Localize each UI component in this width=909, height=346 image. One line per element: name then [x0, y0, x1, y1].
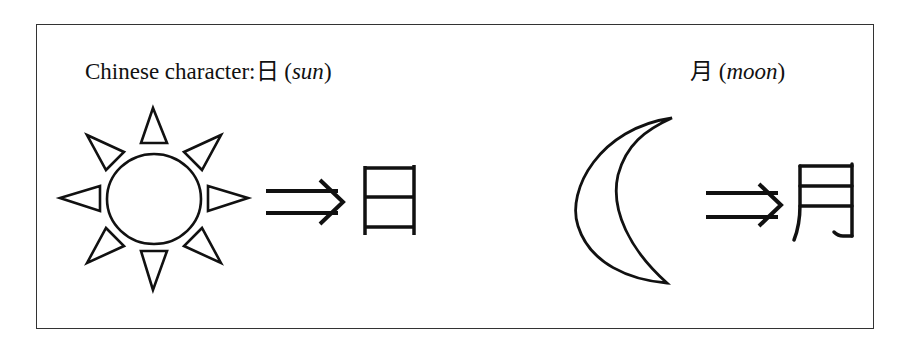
sun-icon: [60, 108, 248, 290]
sun-ray-nw: [87, 135, 124, 170]
sun-ray-se: [184, 228, 221, 263]
sun-ray-ne: [184, 135, 221, 170]
pictograph-canvas: [0, 0, 909, 346]
sun-character-glyph: [365, 165, 414, 235]
sun-ray-n: [141, 108, 167, 143]
double-arrow-icon: [266, 180, 343, 224]
sun-ray-s: [141, 251, 167, 290]
sun-ray-e: [208, 186, 248, 211]
sun-disc: [107, 154, 201, 244]
sun-ray-w: [60, 186, 100, 211]
sun-ray-sw: [87, 228, 124, 263]
moon-character-glyph: [794, 164, 852, 240]
crescent-moon-icon: [576, 118, 672, 283]
double-arrow-icon: [706, 184, 781, 226]
